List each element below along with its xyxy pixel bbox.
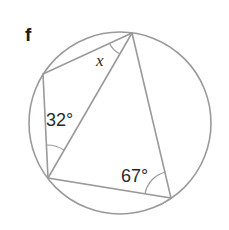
problem-label: f: [25, 24, 32, 45]
angle-x-arc: [110, 44, 120, 54]
angle-67-label: 67°: [121, 166, 148, 186]
angle-32-label: 32°: [46, 110, 73, 130]
angle-x-label: x: [95, 51, 104, 70]
angle-32-arc: [47, 145, 64, 150]
circle-geometry-diagram: f x 32° 67°: [0, 0, 229, 230]
